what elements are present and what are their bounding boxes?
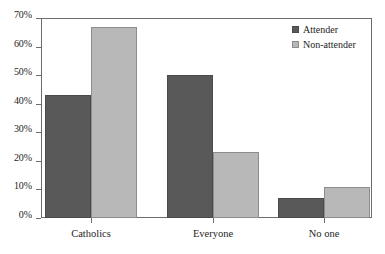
y-axis: 0%10%20%30%40%50%60%70%	[0, 0, 41, 254]
y-axis-tick-label: 20%	[14, 153, 32, 163]
legend-item: Attender	[292, 23, 378, 36]
y-axis-tick-label: 70%	[14, 10, 32, 20]
bar	[278, 198, 324, 218]
bar	[167, 75, 213, 218]
x-axis-tick-label: No one	[274, 228, 374, 240]
y-axis-tick-label: 30%	[14, 124, 32, 134]
y-axis-tick-label: 10%	[14, 181, 32, 191]
bar	[45, 95, 91, 218]
bar	[324, 187, 370, 218]
y-axis-tick-label: 50%	[14, 67, 32, 77]
x-axis-tick-mark	[213, 218, 214, 223]
chart-legend: AttenderNon-attender	[292, 23, 378, 53]
bar-chart: 0%10%20%30%40%50%60%70% CatholicsEveryon…	[0, 0, 385, 254]
y-axis-tick-label: 60%	[14, 39, 32, 49]
bar	[213, 152, 259, 218]
x-axis-tick-mark	[324, 218, 325, 223]
y-axis-tick-label: 40%	[14, 96, 32, 106]
nonattender-swatch	[292, 41, 299, 48]
legend-item-label: Attender	[303, 24, 338, 35]
x-axis-tick-label: Catholics	[41, 228, 141, 240]
bar	[91, 27, 137, 218]
x-axis: CatholicsEveryoneNo one	[0, 218, 385, 254]
attender-swatch	[292, 26, 299, 33]
legend-item: Non-attender	[292, 38, 378, 51]
x-axis-tick-mark	[91, 218, 92, 223]
x-axis-tick-label: Everyone	[163, 228, 263, 240]
legend-item-label: Non-attender	[303, 39, 356, 50]
